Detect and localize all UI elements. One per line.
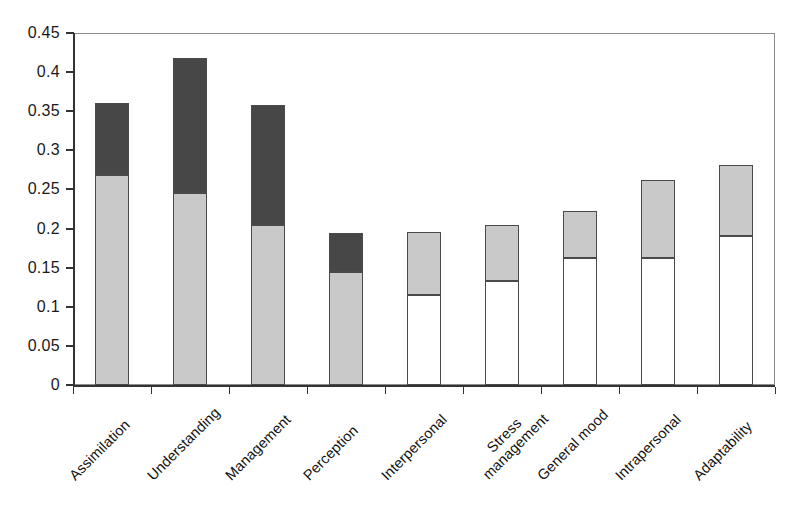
x-axis-tick — [229, 387, 230, 394]
x-axis-category-label: Assimilation — [66, 416, 133, 483]
x-axis-tick — [463, 387, 464, 394]
y-axis-tick-label: 0.35 — [28, 103, 60, 119]
x-axis-category-label: Perception — [300, 422, 361, 483]
x-axis-category-label: Understanding — [144, 404, 223, 483]
y-axis-tick-label: 0.05 — [28, 338, 60, 354]
plot-area-frame — [73, 33, 775, 385]
y-axis-tick-label: 0.45 — [28, 25, 60, 41]
x-axis-tick — [541, 387, 542, 394]
y-axis-tick-label: 0.3 — [37, 142, 60, 158]
x-axis-tick — [73, 387, 74, 394]
x-axis-tick — [385, 387, 386, 394]
x-axis-category-label: Stressmanagement — [456, 387, 564, 495]
x-axis-category-label: Intrapersonal — [612, 411, 684, 483]
y-axis-tick-label: 0.15 — [28, 260, 60, 276]
x-axis-tick — [151, 387, 152, 394]
x-axis-tick — [697, 387, 698, 394]
bar-chart: 00.050.10.150.20.250.30.350.40.45 Assimi… — [0, 0, 795, 505]
x-axis-tick — [775, 387, 776, 394]
y-axis-tick-label: 0.2 — [37, 221, 60, 237]
x-axis-tick — [307, 387, 308, 394]
y-axis-tick-label: 0.25 — [28, 181, 60, 197]
y-axis-tick-label: 0.4 — [37, 64, 60, 80]
y-axis-line — [73, 33, 75, 386]
x-axis-category-label: Management — [222, 411, 294, 483]
x-axis-category-label: Adaptability — [690, 418, 755, 483]
x-axis-category-label: Interpersonal — [378, 411, 450, 483]
y-axis-tick-label: 0 — [51, 377, 60, 393]
x-axis-category-label: General mood — [534, 406, 611, 483]
x-axis-tick — [619, 387, 620, 394]
y-axis-tick-label: 0.1 — [37, 299, 60, 315]
x-axis-line — [73, 385, 775, 387]
